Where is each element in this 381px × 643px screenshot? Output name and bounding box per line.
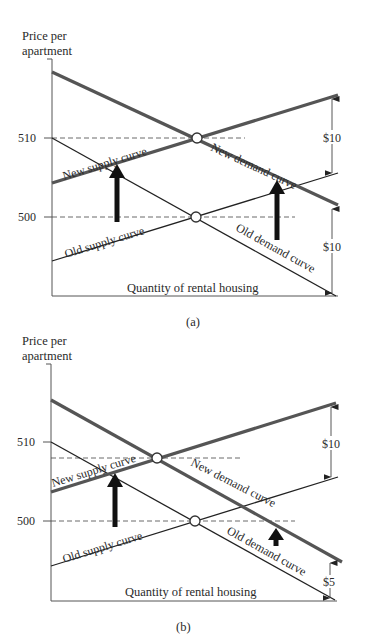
y-axis-label-line1: Price per xyxy=(22,334,68,348)
panel-caption: (b) xyxy=(176,620,191,634)
shift-label-bottom: $10 xyxy=(323,240,341,254)
tick-label-500: 500 xyxy=(18,210,36,224)
tick-label-510: 510 xyxy=(18,131,36,145)
y-axis-label-line2: apartment xyxy=(22,349,73,363)
old-supply-label: Old supply curve xyxy=(63,223,146,261)
x-axis-label: Quantity of rental housing xyxy=(127,281,259,295)
old-supply-label: Old supply curve xyxy=(61,528,144,566)
panel-caption: (a) xyxy=(186,315,200,329)
figure: Price per apartment 510 500 $10 $10 New xyxy=(0,0,381,643)
new-equilibrium-point xyxy=(192,133,202,143)
shift-label-top: $10 xyxy=(322,437,340,451)
old-equilibrium-point xyxy=(190,516,200,526)
x-axis-label: Quantity of rental housing xyxy=(125,585,257,599)
shift-label-top: $10 xyxy=(323,131,341,145)
tick-label-500: 500 xyxy=(17,514,35,528)
tick-label-510: 510 xyxy=(17,435,35,449)
y-axis-label-line2: apartment xyxy=(22,44,73,58)
y-axis-label-line1: Price per xyxy=(22,29,68,43)
old-demand-label: Old demand curve xyxy=(225,523,309,578)
new-equilibrium-point xyxy=(152,453,162,463)
panel-b: Price per apartment 510 500 $10 $5 New xyxy=(17,334,343,634)
panel-a: Price per apartment 510 500 $10 $10 New xyxy=(18,29,344,329)
old-equilibrium-point xyxy=(191,212,201,222)
new-demand-curve xyxy=(51,400,342,562)
shift-label-bottom: $5 xyxy=(323,575,335,589)
new-demand-label: New demand curve xyxy=(209,140,299,192)
